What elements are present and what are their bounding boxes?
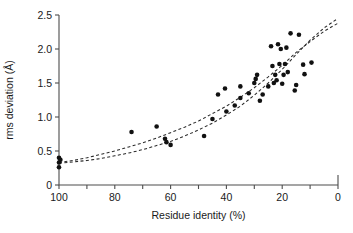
data-point xyxy=(57,165,62,170)
data-point xyxy=(297,32,302,37)
data-point xyxy=(260,92,265,97)
y-tick-label: 1.5 xyxy=(37,77,52,89)
data-point xyxy=(309,60,314,65)
x-tick-label: 100 xyxy=(50,191,68,203)
data-point xyxy=(238,84,243,89)
chart-figure: 100806040200 00.51.01.52.02.5 Residue id… xyxy=(0,0,353,233)
data-point xyxy=(202,134,207,139)
data-point xyxy=(276,42,281,47)
data-point xyxy=(283,62,288,67)
data-point xyxy=(281,73,286,78)
data-point xyxy=(216,92,221,97)
data-point xyxy=(285,70,290,75)
data-point xyxy=(58,158,63,163)
data-point xyxy=(252,81,257,86)
axis-lines xyxy=(59,15,338,185)
data-point xyxy=(269,44,274,49)
y-axis-title: rms deviation (Å) xyxy=(3,60,15,139)
data-point xyxy=(164,140,169,145)
data-point xyxy=(280,81,285,86)
data-point xyxy=(270,64,275,69)
data-point xyxy=(168,143,173,148)
x-axis-title: Residue identity (%) xyxy=(152,209,246,221)
x-tick-marks xyxy=(59,185,338,189)
data-point xyxy=(284,45,289,50)
data-point xyxy=(277,62,282,67)
data-point xyxy=(154,124,159,129)
data-point xyxy=(232,103,237,108)
y-tick-label: 0 xyxy=(46,179,52,191)
y-tick-label: 2.5 xyxy=(37,9,52,21)
data-point xyxy=(210,117,215,122)
data-point xyxy=(129,130,134,135)
data-point xyxy=(301,62,306,67)
data-point xyxy=(255,73,260,78)
data-point xyxy=(292,88,297,93)
y-tick-labels: 00.51.01.52.02.5 xyxy=(37,9,52,191)
data-point xyxy=(266,84,271,89)
data-point xyxy=(238,96,243,101)
data-point xyxy=(274,78,279,83)
data-point xyxy=(246,91,251,96)
y-tick-label: 1.0 xyxy=(37,111,52,123)
x-tick-label: 60 xyxy=(165,191,177,203)
data-point xyxy=(224,109,229,114)
scatter-plot: 100806040200 00.51.01.52.02.5 Residue id… xyxy=(0,0,353,233)
plot-axes xyxy=(55,15,338,189)
data-points xyxy=(57,31,314,170)
x-tick-label: 40 xyxy=(221,191,233,203)
y-tick-label: 0.5 xyxy=(37,145,52,157)
x-tick-label: 0 xyxy=(335,191,341,203)
y-tick-label: 2.0 xyxy=(37,43,52,55)
x-tick-labels: 100806040200 xyxy=(50,191,341,203)
data-point xyxy=(223,86,228,91)
data-point xyxy=(279,47,284,52)
data-point xyxy=(294,83,299,88)
x-tick-label: 80 xyxy=(109,191,121,203)
data-point xyxy=(273,73,278,78)
data-point xyxy=(288,31,293,36)
data-point xyxy=(253,77,258,82)
data-point xyxy=(258,98,263,103)
fit-curve-upper xyxy=(59,23,338,162)
data-point xyxy=(302,72,307,77)
x-tick-label: 20 xyxy=(276,191,288,203)
